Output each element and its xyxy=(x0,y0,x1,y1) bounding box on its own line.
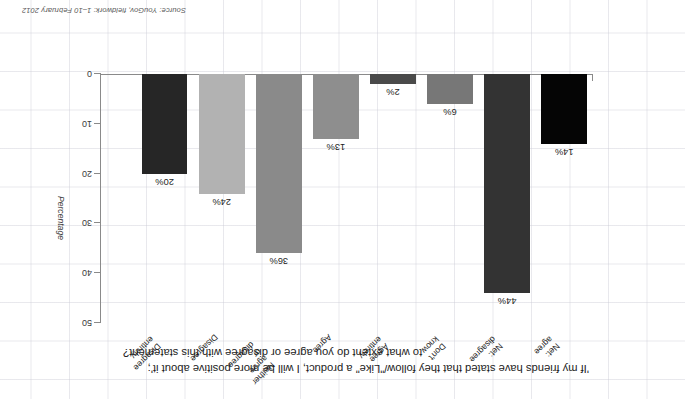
bar[interactable] xyxy=(541,74,587,144)
bar[interactable] xyxy=(313,74,359,139)
y-tick-mark xyxy=(94,272,101,273)
bar[interactable] xyxy=(199,74,245,194)
bar[interactable] xyxy=(427,74,473,104)
bar-value-label: 2% xyxy=(370,87,416,97)
bar-slot: 14%Net: agree xyxy=(541,74,587,323)
bar[interactable] xyxy=(370,74,416,84)
bar-value-label: 6% xyxy=(427,107,473,117)
bar-series: 14%Net: agree44%Net: disagree6%Don't kno… xyxy=(101,74,593,323)
bar-value-label: 36% xyxy=(256,256,302,266)
y-tick-mark xyxy=(94,322,101,323)
bar-value-label: 13% xyxy=(313,142,359,152)
source-note: Source: YouGov, fieldwork: 1–10 February… xyxy=(22,6,186,15)
chart-title-block: 'If my friends have stated that they fol… xyxy=(119,345,589,377)
y-tick-mark xyxy=(94,222,101,223)
y-tick-label: 0 xyxy=(87,69,92,79)
y-axis-title: Percentage xyxy=(56,196,66,240)
y-tick-label: 30 xyxy=(82,218,92,228)
bar[interactable] xyxy=(256,74,302,253)
bar-value-label: 20% xyxy=(142,177,188,187)
bar[interactable] xyxy=(142,74,188,174)
y-tick-label: 10 xyxy=(82,119,92,129)
bar-slot: 44%Net: disagree xyxy=(484,74,530,323)
bar-value-label: 44% xyxy=(484,296,530,306)
y-tick-mark xyxy=(94,173,101,174)
bar-slot: 24%Disagree xyxy=(199,74,245,323)
bar-slot: 6%Don't know xyxy=(427,74,473,323)
bar[interactable] xyxy=(484,74,530,293)
bar-value-label: 14% xyxy=(541,147,587,157)
y-tick-label: 50 xyxy=(82,318,92,328)
rotated-figure: Source: YouGov, fieldwork: 1–10 February… xyxy=(0,0,685,399)
bar-value-label: 24% xyxy=(199,197,245,207)
bar-slot: 13%Agree xyxy=(313,74,359,323)
y-tick-label: 40 xyxy=(82,268,92,278)
chart-title: 'If my friends have stated that they fol… xyxy=(119,361,589,377)
bar-slot: 2%Agree entirely xyxy=(370,74,416,323)
plot-area: Percentage 01020304050 14%Net: agree44%N… xyxy=(101,74,593,323)
y-tick-mark xyxy=(94,123,101,124)
y-tick-label: 20 xyxy=(82,169,92,179)
y-tick-mark xyxy=(94,73,101,74)
bar-slot: 36%Neither agree or disagree xyxy=(256,74,302,323)
chart-page: Source: YouGov, fieldwork: 1–10 February… xyxy=(0,0,685,399)
bar-slot: 20%Disagree entirely xyxy=(142,74,188,323)
